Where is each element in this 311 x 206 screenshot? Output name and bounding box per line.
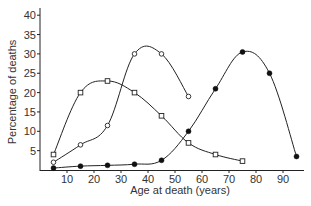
- y-tick-label: 15: [24, 106, 36, 118]
- y-tick-label: 10: [24, 125, 36, 137]
- x-tick-label: 20: [88, 173, 100, 185]
- y-tick-label: 20: [24, 87, 36, 99]
- data-point: [78, 90, 83, 95]
- mortality-chart: 510152025303540102030405060708090 Age at…: [0, 0, 311, 206]
- data-point: [240, 49, 245, 54]
- data-point: [267, 71, 272, 76]
- y-tick-label: 35: [24, 29, 36, 41]
- data-point: [51, 152, 56, 157]
- data-point: [294, 154, 299, 159]
- x-tick-label: 30: [115, 173, 127, 185]
- data-point: [213, 152, 218, 157]
- data-point: [78, 143, 83, 148]
- data-point: [159, 52, 164, 57]
- data-point: [51, 160, 56, 165]
- series-layer: [51, 46, 299, 170]
- data-point: [186, 94, 191, 99]
- data-point: [105, 79, 110, 84]
- x-tick-label: 10: [61, 173, 73, 185]
- data-point: [240, 159, 245, 164]
- y-tick-label: 40: [24, 9, 36, 21]
- data-point: [105, 123, 110, 128]
- x-tick-label: 90: [277, 173, 289, 185]
- data-point: [78, 164, 83, 169]
- y-tick-label: 5: [30, 145, 36, 157]
- y-axis-label: Percentage of deaths: [6, 39, 18, 144]
- series-line: [54, 51, 297, 168]
- data-point: [132, 52, 137, 57]
- data-point: [186, 129, 191, 134]
- data-point: [105, 163, 110, 168]
- data-point: [159, 114, 164, 119]
- data-point: [132, 162, 137, 167]
- x-tick-label: 80: [250, 173, 262, 185]
- data-point: [51, 166, 56, 171]
- data-point: [213, 86, 218, 91]
- data-point: [159, 158, 164, 163]
- series-filled-circle: [51, 49, 299, 170]
- x-axis-label: Age at death (years): [130, 184, 230, 196]
- data-point: [186, 141, 191, 146]
- series-open-circle: [51, 46, 191, 164]
- y-tick-label: 25: [24, 67, 36, 79]
- data-point: [132, 90, 137, 95]
- y-tick-label: 30: [24, 48, 36, 60]
